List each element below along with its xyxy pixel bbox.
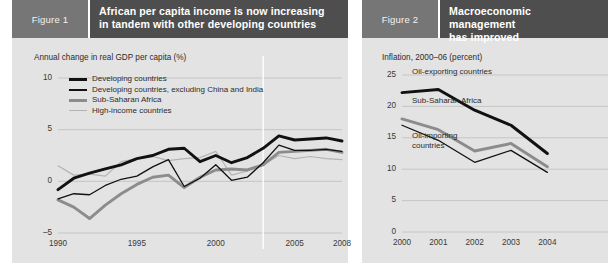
x-tick-label: 2004	[533, 238, 561, 247]
y-tick-label: 5	[372, 195, 396, 204]
y-tick-label: 25	[372, 70, 396, 79]
legend-item: Sub-Saharan Africa	[69, 95, 263, 106]
x-tick-label: 1995	[123, 239, 151, 248]
x-tick-label: 2000	[388, 238, 416, 247]
x-tick-label: 2003	[497, 238, 525, 247]
y-tick-label: 0	[372, 227, 396, 236]
y-tick-label: 10	[372, 164, 396, 173]
series-line	[58, 145, 342, 199]
y-tick-label: 0	[28, 176, 52, 185]
x-tick-label: 1990	[44, 239, 72, 248]
x-tick-label: 2008	[328, 239, 356, 248]
y-tick-label: 20	[372, 101, 396, 110]
figure-1-chart	[12, 0, 348, 263]
legend-item: Developing countries	[69, 74, 263, 85]
figure-1-series-group	[58, 136, 342, 219]
legend-swatch-icon	[69, 99, 87, 102]
y-tick-label: 10	[28, 73, 52, 82]
y-tick-label: –5	[28, 228, 52, 237]
x-tick-label: 2005	[281, 239, 309, 248]
x-tick-label: 2002	[461, 238, 489, 247]
figure-2-annotation-oil-importing: Oil-importingcountries	[412, 131, 457, 150]
figure-2-panel: Figure 2 Macroeconomic management has im…	[362, 0, 608, 263]
figure-2-annotation-oil-exporting: Oil-exporting countries	[412, 67, 492, 77]
legend-item-label: Developing countries	[92, 74, 167, 84]
figure-2-chart	[362, 0, 608, 263]
legend-swatch-icon	[69, 110, 87, 111]
legend-item: High-income countries	[69, 106, 263, 117]
y-tick-label: 15	[372, 132, 396, 141]
x-tick-label: 2000	[202, 239, 230, 248]
y-tick-label: 5	[28, 124, 52, 133]
series-line	[58, 149, 342, 218]
figure-1-panel: Figure 1 African per capita income is no…	[12, 0, 348, 263]
legend-item: Developing countries, excluding China an…	[69, 85, 263, 96]
series-line	[58, 151, 342, 176]
legend-swatch-icon	[69, 78, 87, 81]
legend-item-label: Developing countries, excluding China an…	[92, 85, 263, 95]
x-tick-label: 2001	[424, 238, 452, 247]
legend-item-label: High-income countries	[92, 106, 172, 116]
legend-swatch-icon	[69, 89, 87, 91]
legend-item-label: Sub-Saharan Africa	[92, 95, 161, 105]
figure-1-legend: Developing countries Developing countrie…	[69, 74, 263, 116]
figure-2-annotation-sub-saharan-africa: Sub-Saharan Africa	[412, 96, 481, 106]
